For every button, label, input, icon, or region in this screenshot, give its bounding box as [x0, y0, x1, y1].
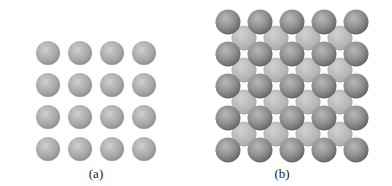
panel-a-simple-layer [36, 41, 156, 161]
front-sphere [280, 138, 305, 163]
front-sphere [248, 42, 273, 67]
front-sphere [216, 42, 241, 67]
front-sphere [280, 10, 305, 35]
sphere [132, 41, 156, 65]
front-sphere [280, 74, 305, 99]
front-sphere [344, 74, 369, 99]
sphere [100, 105, 124, 129]
sphere [132, 73, 156, 97]
sphere [68, 73, 92, 97]
sphere [100, 137, 124, 161]
sphere [36, 41, 60, 65]
front-sphere [312, 42, 337, 67]
sphere-packing-diagram [0, 0, 392, 186]
sphere [36, 137, 60, 161]
sphere [68, 105, 92, 129]
front-sphere [248, 10, 273, 35]
front-sphere [280, 106, 305, 131]
sphere [68, 137, 92, 161]
front-sphere [216, 74, 241, 99]
sphere [132, 105, 156, 129]
front-sphere [344, 138, 369, 163]
front-sphere [344, 42, 369, 67]
front-sphere [312, 106, 337, 131]
front-sphere [216, 10, 241, 35]
front-sphere [312, 10, 337, 35]
front-sphere [216, 138, 241, 163]
front-sphere [344, 106, 369, 131]
front-sphere [280, 42, 305, 67]
panel-a-label: (a) [89, 166, 103, 182]
sphere [36, 73, 60, 97]
sphere [100, 41, 124, 65]
front-sphere [312, 74, 337, 99]
sphere [36, 105, 60, 129]
panel-b-label: (b) [274, 166, 289, 182]
sphere [100, 73, 124, 97]
sphere [132, 137, 156, 161]
front-sphere [248, 74, 273, 99]
front-sphere [248, 138, 273, 163]
front-sphere [312, 138, 337, 163]
front-sphere [344, 10, 369, 35]
sphere [68, 41, 92, 65]
front-sphere [248, 106, 273, 131]
front-sphere [216, 106, 241, 131]
